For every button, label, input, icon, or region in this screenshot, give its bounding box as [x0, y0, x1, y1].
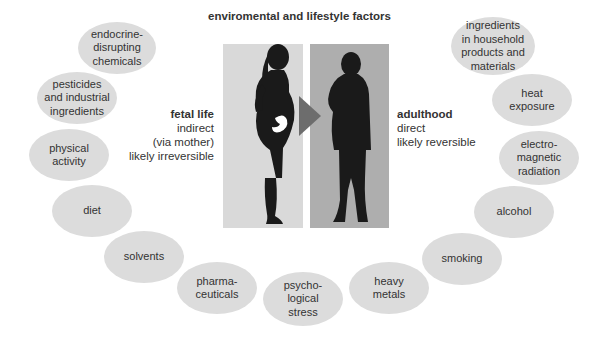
- factor-bubble: heatexposure: [492, 74, 572, 126]
- fetal-life-line: likely irreversible: [129, 149, 214, 163]
- adulthood-label: adulthood direct likely reversible: [397, 107, 476, 149]
- adulthood-line: direct: [397, 121, 476, 135]
- adulthood-heading: adulthood: [397, 107, 476, 121]
- factor-bubble: endocrine-disruptingchemicals: [78, 22, 156, 74]
- pregnant-woman-silhouette-icon: [255, 44, 295, 224]
- adulthood-line: likely reversible: [397, 135, 476, 149]
- factor-bubble: solvents: [104, 231, 184, 283]
- factor-label: solvents: [124, 250, 164, 264]
- factor-bubble: electro-magneticradiation: [499, 131, 579, 185]
- factor-label: ingredientsin householdproducts andmater…: [461, 19, 525, 73]
- factor-label: endocrine-disruptingchemicals: [91, 28, 143, 69]
- factor-bubble: ingredientsin householdproducts andmater…: [451, 17, 535, 75]
- right-arrow-icon: [299, 96, 321, 136]
- factor-bubble: pesticidesand industrialingredients: [37, 72, 117, 124]
- factor-bubble: smoking: [422, 233, 502, 285]
- fetal-life-heading: fetal life: [129, 107, 214, 121]
- factor-label: alcohol: [497, 205, 532, 219]
- factor-label: pharma-ceuticals: [196, 275, 239, 302]
- man-silhouette-icon: [328, 52, 371, 222]
- factor-label: physicalactivity: [49, 142, 89, 169]
- factor-bubble: diet: [52, 185, 132, 237]
- fetal-life-line: indirect: [129, 121, 214, 135]
- factor-label: heavymetals: [373, 275, 405, 302]
- factor-bubble: alcohol: [474, 186, 554, 238]
- factor-label: heatexposure: [509, 87, 554, 114]
- factor-label: pesticidesand industrialingredients: [44, 78, 109, 119]
- fetal-life-line: (via mother): [129, 135, 214, 149]
- factor-label: electro-magneticradiation: [517, 138, 562, 179]
- fetal-life-label: fetal life indirect (via mother) likely …: [129, 107, 214, 163]
- factor-label: diet: [83, 204, 101, 218]
- factor-label: psycho-logicalstress: [284, 279, 323, 320]
- factor-bubble: psycho-logicalstress: [263, 272, 343, 326]
- factor-bubble: heavymetals: [349, 262, 429, 314]
- factor-bubble: pharma-ceuticals: [177, 262, 257, 314]
- factor-label: smoking: [442, 252, 483, 266]
- factor-bubble: physicalactivity: [29, 129, 109, 181]
